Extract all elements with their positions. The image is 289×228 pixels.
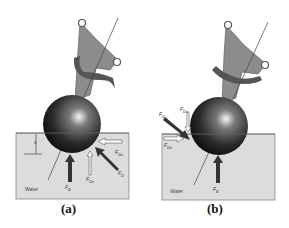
fdz-label: FDz bbox=[180, 106, 188, 114]
depth-label: s bbox=[34, 139, 37, 145]
caption-b: (b) bbox=[207, 201, 223, 217]
fdz-label: FDz bbox=[86, 176, 94, 184]
caption-a: (a) bbox=[61, 201, 76, 217]
swing-arm-icon bbox=[74, 20, 121, 101]
panel-b: Water FB FDz FDx FD (b) bbox=[144, 0, 289, 228]
diagram-a bbox=[0, 0, 145, 228]
water-label: Water bbox=[25, 186, 38, 192]
fd-label: FD bbox=[159, 111, 165, 119]
fb-label: FB bbox=[213, 186, 219, 194]
fdx-label: FDx bbox=[115, 149, 123, 157]
sphere bbox=[43, 95, 101, 153]
swing-arm-icon bbox=[212, 22, 269, 103]
sphere bbox=[190, 97, 248, 155]
drag-vertical-arrow bbox=[185, 112, 191, 132]
fdx-label: FDx bbox=[164, 142, 172, 150]
water-label: Water bbox=[170, 188, 183, 194]
fd-label: FD bbox=[118, 170, 124, 178]
panel-a: s Water FB FDz FDx FD (a) bbox=[0, 0, 145, 228]
fb-label: FB bbox=[65, 184, 71, 192]
